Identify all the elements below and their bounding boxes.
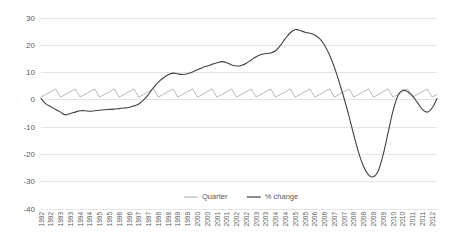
y-axis-tick-label: 0 [31,95,36,104]
x-axis-tick-label: 1995 [106,212,113,227]
x-axis-tick-label: 1997 [135,212,142,227]
y-axis-tick-label: -40 [23,205,35,214]
x-axis-tick-label: 1996 [116,212,123,227]
x-axis-tick-label: 2005 [292,212,299,227]
x-axis-tick-label: 2006 [311,212,318,227]
x-axis-tick-label: 1995 [96,212,103,227]
x-axis-tick-label: 2008 [350,212,357,227]
y-axis-tick-label: 10 [26,68,35,77]
data-series [41,29,437,177]
x-axis-tick-label: 1993 [57,212,64,227]
x-axis-tick-label: 1994 [77,212,84,227]
y-axis-tick-label: 30 [26,14,35,23]
y-axis-tick-labels: 3020100-10-20-30-40 [23,14,35,214]
x-axis-tick-label: 2006 [321,212,328,227]
x-axis-tick-label: 2007 [331,212,338,227]
x-axis-tick-label: 2001 [214,212,221,227]
x-axis-tick-label: 1999 [184,212,191,227]
x-axis-tick-label: 1992 [38,212,45,227]
x-axis-tick-label: 2002 [233,212,240,227]
x-axis-tick-label: 1998 [165,212,172,227]
x-axis-tick-labels: 1992199219931993199419941995199519961996… [38,212,436,227]
chart-legend: Quarter% change [184,192,298,201]
x-axis-tick-label: 2003 [253,212,260,227]
x-axis-tick-label: 2009 [380,212,387,227]
x-axis-tick-label: 2004 [282,212,289,227]
y-axis-tick-label: -20 [23,150,35,159]
x-axis-tick-label: 2011 [409,212,416,226]
y-axis-tick-label: 20 [26,41,35,50]
x-axis-tick-label: 2011 [419,212,426,226]
x-axis-tick-label: 2010 [399,212,406,227]
x-axis-tick-label: 2012 [429,212,436,227]
y-axis-tick-label: -30 [23,177,35,186]
x-axis-tick-label: 1996 [126,212,133,227]
y-axis-tick-label: -10 [23,123,35,132]
x-axis-tick-label: 2007 [341,212,348,227]
x-axis-tick-label: 2000 [204,212,211,227]
line-chart: 3020100-10-20-30-40 19921992199319931994… [0,0,450,234]
x-axis-tick-label: 1997 [145,212,152,227]
x-axis-tick-label: 2010 [390,212,397,227]
x-axis-tick-label: 2005 [302,212,309,227]
x-axis-tick-label: 2004 [272,212,279,227]
gridlines [41,18,437,209]
x-axis-tick-label: 2000 [194,212,201,227]
x-axis-tick-label: 1994 [86,212,93,227]
legend-label-pct-change[interactable]: % change [265,192,298,201]
series-line-pct-change [41,29,437,177]
x-axis-tick-label: 2009 [370,212,377,227]
x-axis-tick-label: 1993 [67,212,74,227]
series-line-quarter [41,89,437,97]
x-axis-tick-label: 2002 [243,212,250,227]
x-axis-tick-label: 2008 [360,212,367,227]
x-axis-tick-label: 1999 [174,212,181,227]
legend-label-quarter[interactable]: Quarter [202,192,228,201]
chart-container: 3020100-10-20-30-40 19921992199319931994… [0,0,450,234]
x-axis-tick-label: 1992 [47,212,54,227]
x-axis-tick-label: 1998 [155,212,162,227]
x-axis-tick-label: 2001 [223,212,230,227]
x-axis-tick-label: 2003 [262,212,269,227]
